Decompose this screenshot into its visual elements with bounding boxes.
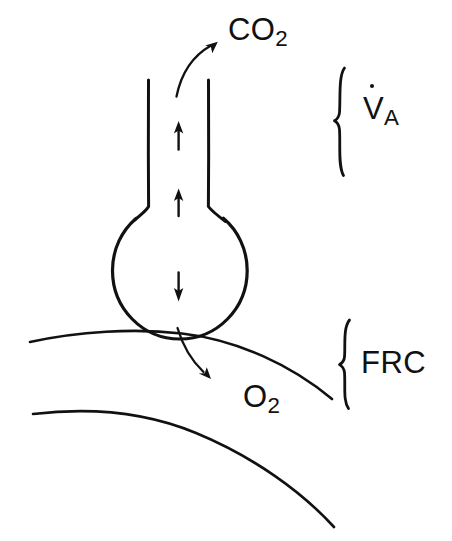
label-co2-base: CO xyxy=(228,12,275,47)
label-va-base-wrap: V xyxy=(363,93,384,124)
brace-frc xyxy=(340,320,350,409)
airflow-arrow-down-1 xyxy=(174,273,183,302)
figure-canvas: CO2 VA FRC O2 xyxy=(0,0,452,541)
label-frc: FRC xyxy=(361,347,426,378)
airway-left-wall xyxy=(134,80,149,221)
chest-wall-lower-curve xyxy=(33,411,334,527)
label-o2-base: O xyxy=(243,379,267,414)
co2-curved-arrow xyxy=(177,42,218,97)
brace-va xyxy=(335,68,345,176)
alveolus-circle xyxy=(113,218,248,339)
label-co2: CO2 xyxy=(228,14,288,51)
label-va: VA xyxy=(363,93,399,130)
label-co2-subscript: 2 xyxy=(275,26,287,51)
airway-right-wall xyxy=(208,80,225,222)
diagram-svg xyxy=(0,0,452,541)
airflow-arrow-up-1 xyxy=(174,121,183,150)
label-o2: O2 xyxy=(243,381,280,418)
label-va-subscript: A xyxy=(384,105,399,130)
airflow-arrow-up-2 xyxy=(174,189,183,217)
label-o2-subscript: 2 xyxy=(267,393,279,418)
label-va-base: V xyxy=(363,91,384,126)
